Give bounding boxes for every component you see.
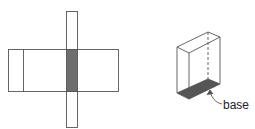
arrowhead-icon	[207, 90, 213, 95]
prism-3d	[177, 32, 222, 104]
diagram: base	[0, 0, 255, 129]
horizontal-strip	[9, 50, 119, 92]
top-face	[177, 32, 220, 53]
base-label: base	[223, 98, 249, 112]
prism-net	[9, 12, 119, 128]
shaded-base	[177, 79, 220, 99]
shaded-base	[67, 50, 78, 92]
